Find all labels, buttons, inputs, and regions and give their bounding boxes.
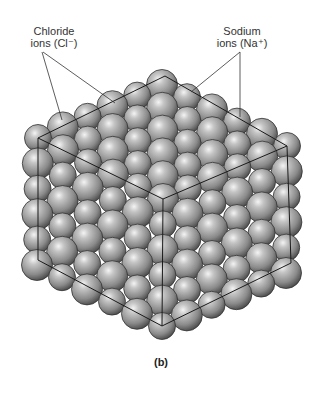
ion-sphere [122, 298, 153, 329]
figure-caption: (b) [141, 356, 181, 368]
ion-sphere [72, 274, 103, 305]
nacl-lattice-diagram [0, 0, 322, 395]
ion-sphere [171, 300, 202, 331]
ion-sphere [271, 207, 302, 238]
ion-sphere [271, 156, 302, 187]
ion-sphere [271, 258, 302, 289]
sodium-ions-label: Sodium ions (Na⁺) [212, 25, 272, 49]
chloride-ions-label: Chloride ions (Cl⁻) [24, 25, 84, 49]
sodium-label-line1: Sodium [212, 25, 272, 37]
chloride-label-line2: ions (Cl⁻) [24, 37, 84, 49]
ion-sphere [221, 279, 252, 310]
sodium-label-line2: ions (Na⁺) [212, 37, 272, 49]
ion-sphere [22, 199, 53, 230]
chloride-label-line1: Chloride [24, 25, 84, 37]
